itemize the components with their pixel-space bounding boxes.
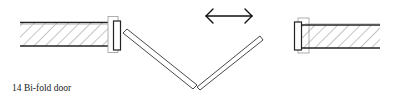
- sliding-direction-arrow: [206, 9, 252, 23]
- right-door-leaf: [197, 36, 263, 90]
- left-door-frame: [108, 17, 121, 53]
- left-door-leaf: [123, 29, 197, 89]
- right-wall: [302, 24, 380, 49]
- left-wall: [20, 23, 113, 47]
- figure-caption: 14 Bi-fold door: [12, 83, 71, 93]
